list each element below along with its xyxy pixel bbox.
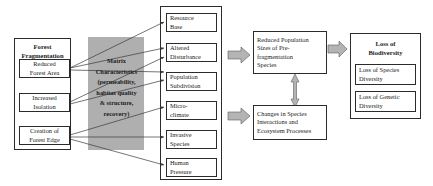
box-reduced-population-line2: Sizes of Pre- [257,44,290,52]
box-changes-species-line1: Changes in Species [257,110,307,118]
box-resource-base[interactable]: Resource Base [166,13,217,32]
box-invasive-species-line2: Species [170,140,190,148]
box-reduced-forest-area-line1: Reduced [33,60,55,68]
arrow-creation-forest-edge-to-human-pressure [70,139,164,165]
box-changes-species-interactions[interactable]: Changes in Species Interactions and Ecos… [253,105,327,140]
box-creation-forest-edge-line2: Forest Edge [29,136,60,144]
box-resource-base-line2: Base [170,23,182,31]
box-micro-climate-line2: climate [170,111,189,119]
forest-fragmentation-title-line1: Forest [14,43,71,52]
box-changes-species-line2: Interactions and [257,118,298,126]
arrow-reduced-forest-area-to-resource-base [70,22,164,68]
arrow-increased-isolation-to-population-subdivision [70,80,164,104]
box-reduced-forest-area[interactable]: Reduced Forest Area [19,59,70,78]
box-loss-genetic-diversity-line1: Loss of Genetic [359,93,399,101]
block-arrow-outcomes-to-biodiversity [328,41,347,57]
box-increased-isolation-line1: Increased [32,94,56,102]
diagram-canvas: Forest Fragmentation Reduced Forest Area… [0,0,433,186]
box-reduced-population-sizes[interactable]: Reduced Population Sizes of Pre- fragmen… [253,31,327,74]
arrow-increased-isolation-to-altered-disturbance [70,57,164,102]
box-altered-disturbance[interactable]: Altered Disturbance [166,43,217,62]
box-loss-species-diversity[interactable]: Loss of Species Diversity [355,64,416,85]
box-reduced-population-line3: fragmentation [257,53,293,61]
arrow-reduced-forest-area-to-altered-disturbance [70,48,164,68]
box-altered-disturbance-line1: Altered [170,44,189,52]
box-reduced-population-line4: Species [257,61,277,69]
box-population-subdivision[interactable]: Population Subdivision [166,72,217,91]
box-loss-species-diversity-line1: Loss of Species [359,66,399,74]
box-reduced-forest-area-line2: Forest Area [30,69,60,77]
block-arrow-effects-to-reduced-population [228,47,250,63]
effects-panel [160,6,222,180]
box-human-pressure[interactable]: Human Pressure [166,158,217,177]
block-arrow-effects-to-changes-species [228,108,250,124]
box-invasive-species[interactable]: Invasive Species [166,130,217,149]
biodiversity-title-line2: Biodiversity [350,49,421,58]
box-increased-isolation-line2: Isolation [33,103,55,111]
arrow-reduced-forest-area-to-population-subdivision [70,70,164,72]
box-population-subdivision-line2: Subdivision [170,82,201,90]
box-reduced-population-line1: Reduced Population [257,36,309,44]
box-changes-species-line3: Ecosystem Processes [257,127,311,135]
biodiversity-title: Loss of Biodiversity [350,40,421,57]
forest-fragmentation-title: Forest Fragmentation [14,43,71,60]
box-population-subdivision-line1: Population [170,73,198,81]
box-micro-climate[interactable]: Micro- climate [166,101,217,120]
block-arrow-double-outcomes [291,74,299,107]
box-creation-forest-edge[interactable]: Creation of Forest Edge [19,126,70,145]
box-increased-isolation[interactable]: Increased Isolation [19,93,70,112]
box-resource-base-line1: Resource [170,14,194,22]
box-loss-species-diversity-line2: Diversity [359,75,383,83]
box-loss-genetic-diversity[interactable]: Loss of Genetic Diversity [355,91,416,112]
box-human-pressure-line2: Pressure [170,168,192,176]
box-altered-disturbance-line2: Disturbance [170,53,201,61]
box-invasive-species-line1: Invasive [170,131,192,139]
biodiversity-title-line1: Loss of [350,40,421,49]
box-human-pressure-line1: Human [170,159,189,167]
box-micro-climate-line1: Micro- [170,102,188,110]
box-loss-genetic-diversity-line2: Diversity [359,102,383,110]
box-creation-forest-edge-line1: Creation of [30,127,59,135]
arrow-creation-forest-edge-to-micro-climate [70,107,164,135]
